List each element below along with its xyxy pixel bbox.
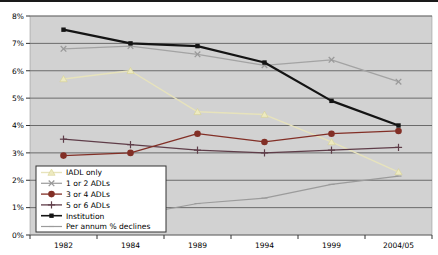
y-axis-label-5: 5% xyxy=(12,94,24,103)
x-axis-label-1982: 1982 xyxy=(54,241,73,250)
square-marker-icon xyxy=(61,27,65,31)
y-axis-label-8: 8% xyxy=(12,12,24,21)
chart-frame: 0%1%2%3%4%5%6%7%8%1982198419891994199920… xyxy=(0,0,438,255)
circle-marker-icon xyxy=(194,130,201,137)
legend-item-5-or-6-adls: 5 or 6 ADLs xyxy=(41,201,110,210)
legend-label-iadl-only: IADL only xyxy=(66,168,102,177)
y-axis-label-1: 1% xyxy=(12,203,24,212)
square-marker-icon xyxy=(329,99,333,103)
y-axis-label-3: 3% xyxy=(12,149,24,158)
square-marker-icon xyxy=(396,123,400,127)
square-marker-icon xyxy=(262,60,266,64)
legend-label-5-or-6-adls: 5 or 6 ADLs xyxy=(66,201,110,210)
circle-marker-icon xyxy=(395,128,402,135)
chart-svg: 0%1%2%3%4%5%6%7%8%1982198419891994199920… xyxy=(0,2,438,255)
x-axis-label-1999: 1999 xyxy=(322,241,341,250)
legend-label-per-annum-declines: Per annum % declines xyxy=(66,222,150,231)
circle-marker-icon xyxy=(328,130,335,137)
circle-marker-icon xyxy=(48,191,55,198)
legend-label-1-or-2-adls: 1 or 2 ADLs xyxy=(66,179,110,188)
legend: IADL only1 or 2 ADLs3 or 4 ADLs5 or 6 AD… xyxy=(36,166,166,232)
square-marker-icon xyxy=(49,214,53,218)
x-axis-label-2004-05: 2004/05 xyxy=(383,241,414,250)
legend-label-institution: Institution xyxy=(66,212,105,221)
x-axis-label-1989: 1989 xyxy=(188,241,207,250)
y-axis-label-0: 0% xyxy=(12,231,24,240)
circle-marker-icon xyxy=(127,150,134,157)
y-axis-label-7: 7% xyxy=(12,39,24,48)
square-marker-icon xyxy=(128,41,132,45)
y-axis-label-6: 6% xyxy=(12,67,24,76)
y-axis-label-2: 2% xyxy=(12,176,24,185)
circle-marker-icon xyxy=(261,139,268,146)
x-axis-label-1994: 1994 xyxy=(255,241,274,250)
square-marker-icon xyxy=(195,44,199,48)
x-axis-label-1984: 1984 xyxy=(121,241,140,250)
circle-marker-icon xyxy=(60,152,67,159)
legend-label-3-or-4-adls: 3 or 4 ADLs xyxy=(66,190,110,199)
y-axis-label-4: 4% xyxy=(12,121,24,130)
